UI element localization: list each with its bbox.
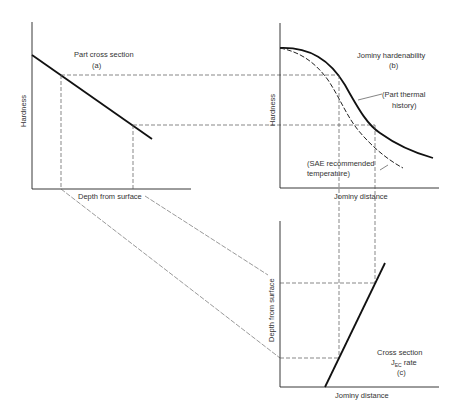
panel-c-rate: JEC rate xyxy=(391,358,417,368)
panel-a: Part cross section (a) Hardness Depth fr… xyxy=(19,22,191,201)
sae-label-2: temperature) xyxy=(307,169,350,178)
sae-recommended-curve xyxy=(280,48,403,168)
panel-c: Cross section JEC rate (c) Depth from su… xyxy=(267,221,439,400)
panel-c-title: Cross section xyxy=(377,348,422,357)
sae-leader xyxy=(380,165,388,170)
panel-c-tag: (c) xyxy=(397,368,406,377)
sae-label-1: (SAE recommended xyxy=(307,159,375,168)
panel-a-ylabel: Hardness xyxy=(19,95,28,127)
part-thermal-label-2: history) xyxy=(392,101,417,110)
part-thermal-leader xyxy=(358,94,382,100)
panel-b-ylabel: Hardness xyxy=(268,94,277,126)
jominy-diagram: Part cross section (a) Hardness Depth fr… xyxy=(0,0,468,413)
panel-b-xlabel: Jominy distance xyxy=(334,192,388,201)
link-depth-1 xyxy=(61,189,280,358)
panel-c-ylabel: Depth from surface xyxy=(267,278,276,342)
panel-b: Jominy hardenability (b) (Part thermal h… xyxy=(268,23,439,201)
jec-rate-line xyxy=(325,263,385,387)
panel-a-title: Part cross section xyxy=(74,50,134,59)
panel-b-title: Jominy hardenability xyxy=(357,51,426,60)
panel-a-xlabel: Depth from surface xyxy=(78,192,142,201)
link-depth-2 xyxy=(145,196,268,275)
part-thermal-label-1: (Part thermal xyxy=(382,90,426,99)
panel-b-tag: (b) xyxy=(389,61,399,70)
panel-a-tag: (a) xyxy=(92,61,102,70)
panel-c-xlabel: Jominy distance xyxy=(335,391,389,400)
